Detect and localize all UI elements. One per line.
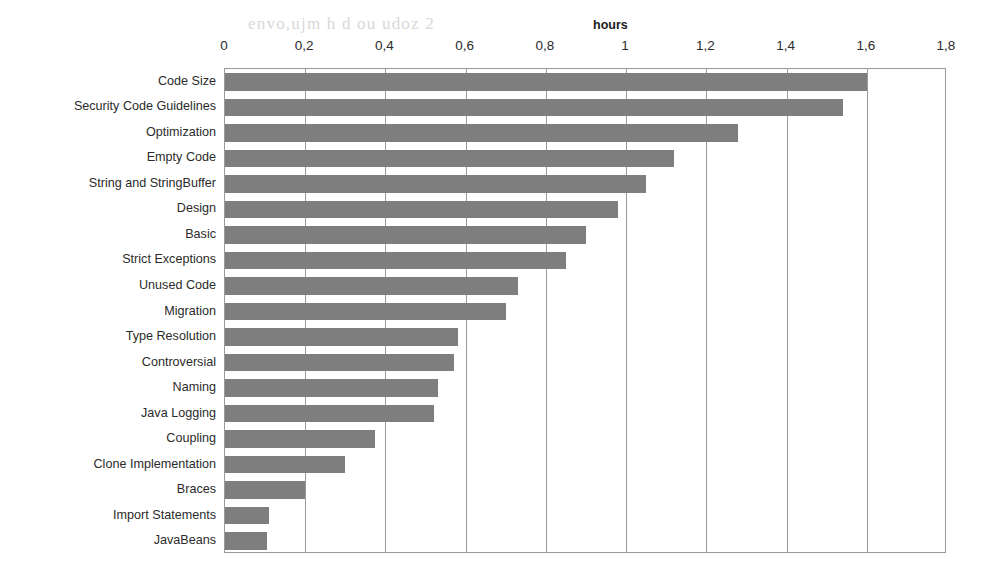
bar: [225, 277, 518, 295]
y-category-label: Basic: [185, 228, 216, 241]
y-category-label: Design: [177, 202, 216, 215]
y-category-label: Clone Implementation: [93, 458, 216, 471]
bar: [225, 73, 867, 91]
y-category-label: Naming: [173, 381, 216, 394]
y-category-label: Type Resolution: [126, 330, 216, 343]
bar: [225, 532, 267, 550]
bar: [225, 99, 843, 117]
y-category-label: Controversial: [142, 356, 216, 369]
y-category-label: Unused Code: [139, 279, 216, 292]
x-tick-label: 1: [621, 38, 629, 53]
x-tick-label: 0,6: [455, 38, 474, 53]
bar: [225, 252, 566, 270]
bar: [225, 150, 674, 168]
bar: [225, 405, 434, 423]
bar-chart: envo,ujm h d ou udoz 2Nl n. hours 00,20,…: [0, 0, 985, 584]
scan-artifact-text: envo,ujm h d ou udoz 2: [248, 14, 435, 34]
y-category-label: Empty Code: [147, 151, 216, 164]
bar: [225, 175, 646, 193]
bar: [225, 430, 375, 448]
bar: [225, 481, 305, 499]
x-tick-label: 0,2: [295, 38, 314, 53]
gridline: [787, 69, 788, 552]
bar: [225, 354, 454, 372]
x-tick-label: 1,2: [696, 38, 715, 53]
x-tick-label: 0,8: [535, 38, 554, 53]
bar: [225, 201, 618, 219]
y-category-label: Java Logging: [141, 407, 216, 420]
y-category-label: String and StringBuffer: [89, 177, 216, 190]
bar: [225, 507, 269, 525]
bar: [225, 226, 586, 244]
bar: [225, 124, 738, 142]
bar: [225, 328, 458, 346]
plot-area: [224, 68, 946, 553]
bar: [225, 379, 438, 397]
y-category-label: Code Size: [158, 75, 216, 88]
y-category-label: Strict Exceptions: [122, 253, 216, 266]
x-tick-label: 1,8: [937, 38, 956, 53]
y-category-label: Braces: [177, 483, 216, 496]
y-category-label: Optimization: [146, 126, 216, 139]
x-tick-label: 1,4: [776, 38, 795, 53]
gridline: [867, 69, 868, 552]
bar: [225, 456, 345, 474]
y-category-label: Migration: [164, 305, 216, 318]
x-tick-label: 0: [220, 38, 228, 53]
chart-axis-title: hours: [593, 18, 628, 32]
y-category-label: Security Code Guidelines: [74, 100, 216, 113]
y-category-label: JavaBeans: [154, 534, 216, 547]
x-tick-label: 0,4: [375, 38, 394, 53]
y-category-label: Import Statements: [113, 509, 216, 522]
y-category-label: Coupling: [166, 432, 216, 445]
bar: [225, 303, 506, 321]
x-tick-label: 1,6: [856, 38, 875, 53]
